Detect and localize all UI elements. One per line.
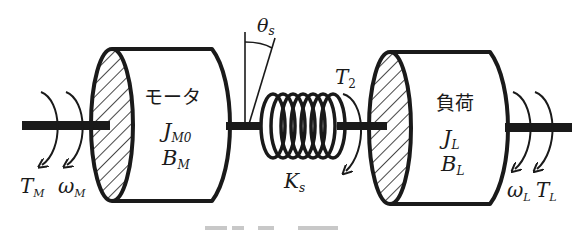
- twist-angle-indicator: [245, 32, 275, 124]
- motor-name-label: モータ: [144, 86, 201, 108]
- load-torque-label: TL: [536, 178, 557, 204]
- motor-torque-label: TM: [20, 174, 45, 200]
- load-cylinder: [369, 52, 508, 204]
- motor-front-face: [91, 49, 133, 201]
- load-speed-label: ωL: [507, 178, 531, 204]
- motor-output-shaft: [226, 122, 262, 130]
- motor-cylinder: [91, 49, 230, 201]
- caption-remnant: [205, 226, 338, 230]
- load-front-face: [369, 52, 411, 204]
- two-inertia-diagram: モータ JM0 BM 負荷 JL BL θs Ks TM ωM T2 ωL TL: [0, 0, 586, 230]
- twist-angle-label: θs: [257, 14, 275, 38]
- shaft-torque-label: T2: [335, 65, 356, 91]
- load-output-shaft: [505, 123, 572, 132]
- torsion-spring: [261, 94, 345, 158]
- spring-stiffness-label: Ks: [283, 169, 305, 195]
- load-name-label: 負荷: [436, 92, 474, 114]
- motor-speed-label: ωM: [58, 174, 86, 200]
